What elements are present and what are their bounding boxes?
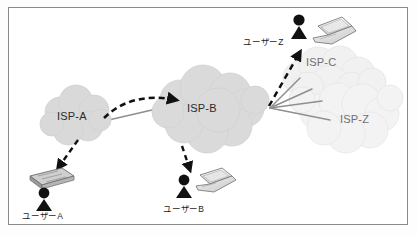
user-a-group <box>30 168 74 211</box>
diagram-artwork <box>0 0 418 235</box>
person-icon-z <box>291 14 307 39</box>
laptop-icon-z <box>313 17 356 44</box>
person-icon-a <box>36 188 52 211</box>
user-z-group <box>291 14 356 44</box>
cloud-isp-b <box>152 65 269 153</box>
diagram-canvas: ISP-A ISP-B ISP-C ISP-Z ユーザーA ユーザーB ユーザー… <box>0 0 418 235</box>
cloud-isp-a <box>40 85 111 145</box>
user-b-group <box>176 168 236 198</box>
flow-b-to-user-b <box>182 146 190 170</box>
laptop-icon-b <box>196 168 236 192</box>
cloud-isp-z <box>289 83 403 153</box>
document-icon <box>30 168 74 189</box>
person-icon-b <box>176 175 192 198</box>
